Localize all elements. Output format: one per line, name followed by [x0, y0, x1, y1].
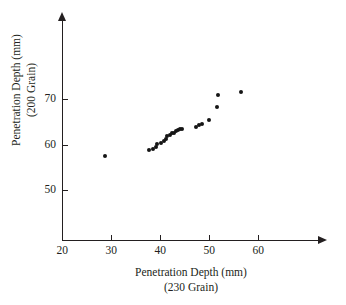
plot-area: 2030405060 506070: [0, 0, 346, 305]
data-point: [147, 148, 151, 152]
y-axis-title-line1: Penetration Depth (mm): [9, 0, 24, 200]
x-tick-label-20: 20: [57, 245, 69, 257]
y-tick-70: [63, 99, 68, 100]
x-tick-50: [209, 235, 210, 240]
x-tick-label-50: 50: [204, 245, 216, 257]
x-axis-title-line2: (230 Grain): [62, 280, 320, 295]
data-point: [207, 118, 211, 122]
x-tick-60: [258, 235, 259, 240]
x-axis-title: Penetration Depth (mm) (230 Grain): [62, 265, 320, 295]
y-axis-title-line2: (200 Grain): [24, 0, 39, 200]
x-axis-line: [62, 240, 320, 241]
x-tick-label-60: 60: [253, 245, 265, 257]
x-tick-label-40: 40: [155, 245, 167, 257]
data-point: [200, 122, 204, 126]
scatter-plot-figure: 2030405060 506070 Penetration Depth (mm)…: [0, 0, 346, 305]
y-tick-60: [63, 145, 68, 146]
x-axis-title-line1: Penetration Depth (mm): [62, 265, 320, 280]
y-axis-line: [62, 20, 63, 241]
y-axis-arrow-icon: [58, 12, 66, 21]
x-axis-arrow-icon: [318, 236, 327, 244]
data-point: [103, 154, 107, 158]
x-tick-20: [62, 235, 63, 240]
data-point: [215, 105, 219, 109]
data-point: [180, 127, 184, 131]
y-tick-50: [63, 190, 68, 191]
x-tick-label-30: 30: [106, 245, 118, 257]
y-axis-title: Penetration Depth (mm) (200 Grain): [9, 0, 39, 200]
x-tick-40: [160, 235, 161, 240]
data-point: [239, 90, 243, 94]
x-tick-30: [111, 235, 112, 240]
data-point: [216, 93, 220, 97]
